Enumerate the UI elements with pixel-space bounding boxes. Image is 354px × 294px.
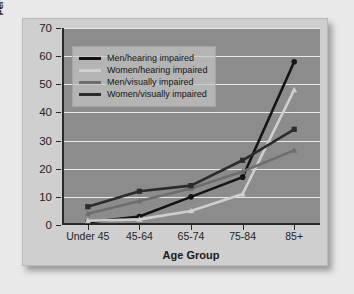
x-tick-label: 45-64	[126, 230, 153, 242]
legend-label: Women/hearing impaired	[107, 65, 207, 76]
data-point-marker	[292, 127, 297, 132]
y-tick-label: 70	[0, 22, 52, 34]
data-point-marker	[85, 204, 90, 209]
data-point-marker	[291, 87, 297, 93]
y-tick-label: 60	[0, 50, 52, 62]
y-tick-mark	[56, 169, 61, 170]
chart-legend: Men/hearing impairedWomen/hearing impair…	[72, 46, 216, 107]
y-tick-mark	[56, 141, 61, 142]
legend-swatch	[79, 81, 101, 84]
legend-item: Men/hearing impaired	[79, 53, 207, 64]
data-point-marker	[137, 189, 142, 194]
legend-swatch	[79, 93, 101, 96]
y-tick-label: 30	[0, 135, 52, 147]
y-tick-mark	[56, 28, 61, 29]
x-tick-mark	[294, 225, 295, 230]
y-tick-label: 40	[0, 106, 52, 118]
legend-item: Women/visually impaired	[79, 89, 207, 100]
legend-label: Men/visually impaired	[107, 77, 194, 88]
y-tick-label: 20	[0, 163, 52, 175]
legend-item: Men/visually impaired	[79, 77, 207, 88]
data-point-marker	[188, 183, 193, 188]
y-tick-label: 10	[0, 191, 52, 203]
y-tick-mark	[56, 84, 61, 85]
y-axis-ticks: 010203040506070	[0, 28, 58, 225]
legend-swatch	[79, 69, 101, 72]
legend-label: Men/hearing impaired	[107, 53, 194, 64]
x-axis-title: Age Group	[62, 249, 320, 261]
series-line	[88, 150, 294, 213]
y-tick-label: 50	[0, 78, 52, 90]
x-tick-mark	[243, 225, 244, 230]
data-point-marker	[291, 59, 297, 65]
legend-label: Women/visually impaired	[107, 89, 207, 100]
x-tick-label: 65-74	[178, 230, 205, 242]
legend-item: Women/hearing impaired	[79, 65, 207, 76]
x-axis-labels: Under 4545-6465-7475-8485+	[62, 230, 320, 246]
y-tick-mark	[56, 225, 61, 226]
x-tick-mark	[139, 225, 140, 230]
y-tick-label: 0	[0, 219, 52, 231]
x-tick-label: Under 45	[66, 230, 109, 242]
data-point-marker	[188, 194, 194, 200]
x-tick-label: 85+	[285, 230, 303, 242]
data-point-marker	[240, 174, 246, 180]
y-tick-mark	[56, 56, 61, 57]
x-tick-label: 75-84	[229, 230, 256, 242]
data-point-marker	[240, 158, 245, 163]
chart-figure: Percentage of Individuals Reporting Diff…	[0, 0, 354, 294]
x-tick-mark	[191, 225, 192, 230]
y-tick-mark	[56, 112, 61, 113]
legend-swatch	[79, 57, 101, 60]
x-tick-mark	[88, 225, 89, 230]
series-line	[88, 90, 294, 221]
y-tick-mark	[56, 197, 61, 198]
